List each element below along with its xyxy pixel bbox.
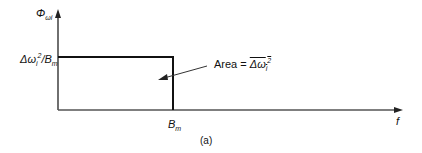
x-axis-arrowhead (394, 107, 403, 113)
diagram-canvas (0, 0, 422, 153)
area-annotation: Area = Δωi2 (214, 57, 271, 72)
x-mark-label: Bm (168, 119, 181, 132)
y-level-label: Δωi2/Bm (20, 52, 58, 67)
figure-caption: (a) (200, 136, 212, 146)
annotation-arrowhead (158, 74, 168, 80)
y-axis-label: Φωi (36, 8, 52, 21)
y-axis-arrowhead (55, 9, 61, 18)
rectangular-spectrum (58, 57, 173, 110)
x-axis-label: f (396, 116, 399, 127)
annotation-leader-line (164, 66, 207, 78)
